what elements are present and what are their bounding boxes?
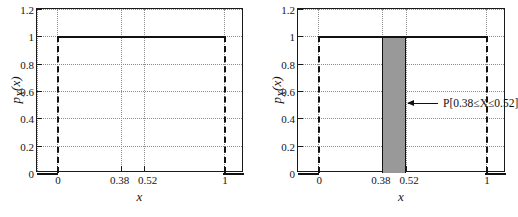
- ytick-label-0.2: 0.2: [281, 141, 295, 153]
- xtick-label-1: 1: [222, 174, 228, 186]
- ylabel-p: p: [8, 97, 23, 104]
- xtick-label-0.38: 0.38: [371, 174, 390, 186]
- ytick-0.8: 0.8: [37, 64, 42, 65]
- gridline-y-1.2: [37, 9, 242, 10]
- xtick-label-0.38: 0.38: [110, 174, 129, 186]
- ytick-0.2: 0.2: [298, 146, 303, 147]
- gridline-y-0.8: [37, 64, 242, 65]
- pdf-plateau: [318, 36, 486, 38]
- arrow-left-icon: [408, 103, 438, 104]
- x-axis-label-right: x: [398, 189, 404, 205]
- gridline-x-0.52: [406, 9, 407, 171]
- ytick-1: 1: [298, 36, 303, 37]
- y-axis-label-left: pX(x): [8, 76, 26, 103]
- ytick-0.2: 0.2: [37, 146, 42, 147]
- ytick-0.8: 0.8: [298, 64, 303, 65]
- ytick-label-1.2: 1.2: [281, 4, 295, 16]
- xtick-label-0: 0: [55, 174, 61, 186]
- plot-area-left: 1.2 1 0.8 0.6 0.4 0.2 0 0: [36, 8, 243, 172]
- x-axis-label-left: x: [137, 189, 143, 205]
- xtick-label-0: 0: [316, 174, 322, 186]
- probability-annotation: P[0.38≤X≤0.52]: [408, 97, 518, 109]
- ylabel-sub-X: X: [276, 91, 287, 97]
- ytick-0.6: 0.6: [298, 91, 303, 92]
- ytick-label-0.4: 0.4: [281, 113, 295, 125]
- xtick-label-0.52: 0.52: [138, 174, 157, 186]
- pdf-riser-x1: [224, 36, 226, 173]
- pdf-plateau: [57, 36, 224, 38]
- xtick-0.52: 0.52: [406, 166, 407, 171]
- gridline-x-0.52: [144, 9, 145, 171]
- gridline-y-0.6: [37, 91, 242, 92]
- ytick-label-1: 1: [290, 31, 296, 43]
- ylabel-sub-X: X: [15, 91, 26, 97]
- plot-area-right: 1.2 1 0.8 0.6 0.4 0.2 0 0: [297, 8, 505, 172]
- ytick-0.6: 0.6: [37, 91, 42, 92]
- ytick-0.4: 0.4: [298, 118, 303, 119]
- pdf-riser-x0: [318, 36, 320, 173]
- ytick-label-0: 0: [290, 168, 296, 180]
- pdf-baseline-right: [223, 173, 244, 175]
- noop: [37, 9, 38, 171]
- pdf-riser-x0: [57, 36, 59, 173]
- ytick-label-1.2: 1.2: [20, 4, 34, 16]
- ytick-label-0: 0: [29, 168, 35, 180]
- probability-annotation-label: P[0.38≤X≤0.52]: [443, 97, 518, 109]
- pdf-baseline-right: [485, 173, 506, 175]
- ytick-1.2: 1.2: [37, 9, 42, 10]
- ytick-label-0.4: 0.4: [20, 113, 34, 125]
- ytick-label-0.2: 0.2: [20, 141, 34, 153]
- ytick-label-0.8: 0.8: [20, 59, 34, 71]
- xtick-0.38: 0.38: [382, 166, 383, 171]
- pdf-baseline-left: [37, 173, 58, 175]
- ytick-0.4: 0.4: [37, 118, 42, 119]
- panel-uniform-pdf-shaded: 1.2 1 0.8 0.6 0.4 0.2 0 0: [256, 0, 513, 217]
- ytick-label-1: 1: [29, 31, 35, 43]
- xtick-label-0.52: 0.52: [400, 174, 419, 186]
- ylabel-arg: (x): [269, 76, 284, 90]
- ylabel-arg: (x): [8, 76, 23, 90]
- y-axis-label-right: pX(x): [269, 76, 287, 103]
- xtick-label-1: 1: [484, 174, 490, 186]
- gridline-y-0.4: [37, 118, 242, 119]
- gridline-y-1.2: [298, 9, 504, 10]
- gridline-x-0.38: [121, 9, 122, 171]
- ylabel-p: p: [269, 97, 284, 104]
- ytick-1.2: 1.2: [298, 9, 303, 10]
- pdf-baseline-left: [298, 173, 319, 175]
- shaded-region-probability: [382, 36, 406, 173]
- gridline-y-0.2: [37, 146, 242, 147]
- panel-uniform-pdf-plain: 1.2 1 0.8 0.6 0.4 0.2 0 0: [0, 0, 257, 217]
- xtick-0.38: 0.38: [121, 166, 122, 171]
- ytick-1: 1: [37, 36, 42, 37]
- xtick-0.52: 0.52: [144, 166, 145, 171]
- ytick-label-0.8: 0.8: [281, 59, 295, 71]
